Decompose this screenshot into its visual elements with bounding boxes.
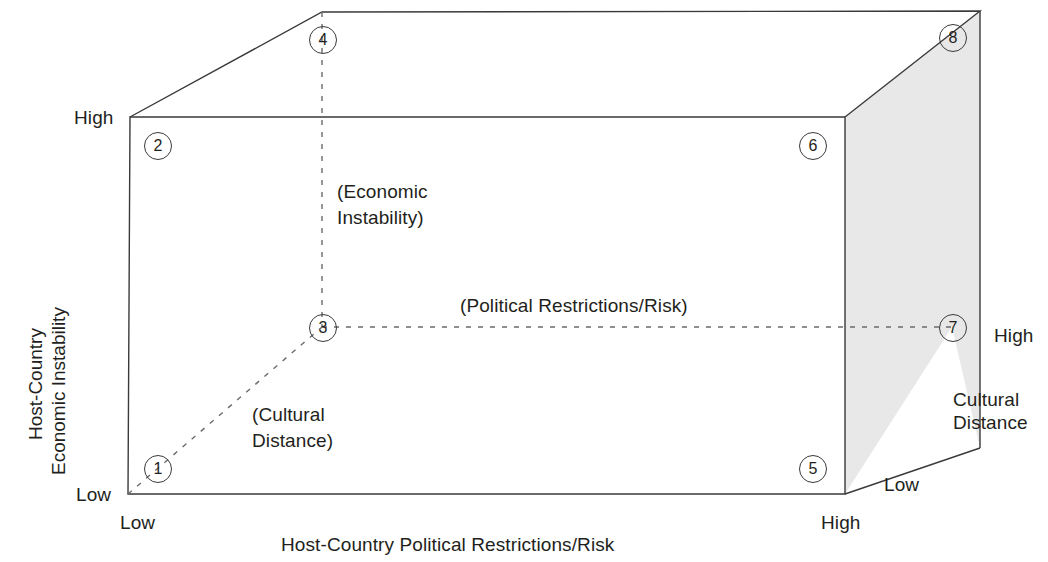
z-axis-name-line2: Distance xyxy=(953,411,1028,434)
cultural-distance-label-line2: Distance) xyxy=(252,429,333,452)
x-axis-low-label: Low xyxy=(120,511,155,534)
vertex-marker-2: 2 xyxy=(144,132,172,160)
vertex-marker-1: 1 xyxy=(144,455,172,483)
y-axis-high-label: High xyxy=(74,106,113,129)
cultural-distance-label-line1: (Cultural xyxy=(252,403,325,426)
z-axis-low-label: Low xyxy=(884,473,919,496)
vertex-marker-3: 3 xyxy=(309,314,337,342)
political-restrictions-label: (Political Restrictions/Risk) xyxy=(460,294,688,317)
vertex-marker-4: 4 xyxy=(309,26,337,54)
y-axis-low-label: Low xyxy=(76,483,111,506)
top-face-edges xyxy=(130,11,980,117)
economic-instability-label-line2: Instability) xyxy=(337,206,424,229)
x-axis-name: Host-Country Political Restrictions/Risk xyxy=(281,533,614,556)
z-axis-name-line1: Cultural xyxy=(953,388,1019,411)
x-axis-high-label: High xyxy=(821,511,860,534)
vertex-marker-6: 6 xyxy=(799,132,827,160)
vertex-marker-5: 5 xyxy=(799,455,827,483)
diagram-canvas: 1 2 3 4 5 6 7 8 High Low Low High Low Hi… xyxy=(0,0,1048,562)
vertex-marker-8: 8 xyxy=(939,24,967,52)
y-axis-name-line1: Host-Country xyxy=(24,328,47,440)
vertex-marker-7: 7 xyxy=(939,314,967,342)
z-axis-high-label: High xyxy=(994,324,1033,347)
y-axis-name-line2: Economic Instability xyxy=(47,307,70,475)
economic-instability-label-line1: (Economic xyxy=(337,180,428,203)
